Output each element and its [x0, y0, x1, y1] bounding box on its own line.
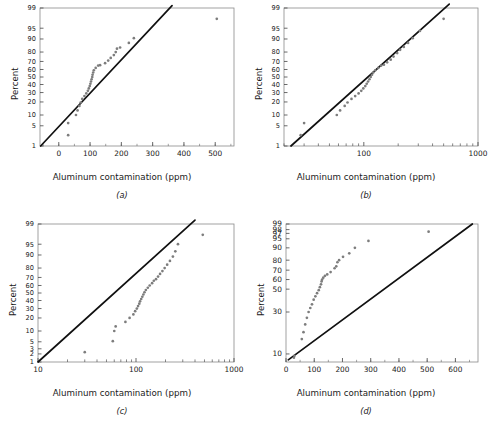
svg-text:0: 0 [56, 149, 61, 158]
svg-text:40: 40 [28, 81, 36, 89]
svg-text:95: 95 [28, 25, 36, 33]
svg-text:50: 50 [272, 73, 280, 81]
svg-text:30: 30 [272, 89, 280, 97]
panel-d-x-axis-label: Aluminum contamination (ppm) [244, 388, 488, 398]
svg-text:70: 70 [273, 266, 283, 275]
svg-text:30: 30 [28, 89, 36, 97]
svg-text:20: 20 [28, 98, 36, 106]
svg-text:99: 99 [272, 4, 280, 12]
svg-text:70: 70 [28, 58, 36, 66]
panel-d-caption: (d) [244, 406, 488, 416]
svg-text:80: 80 [28, 48, 36, 56]
svg-text:60: 60 [26, 282, 34, 290]
panel-a-x-axis-label: Aluminum contamination (ppm) [0, 172, 244, 182]
panel-c-caption: (c) [0, 406, 244, 416]
svg-text:60: 60 [272, 66, 280, 74]
svg-text:400: 400 [392, 365, 406, 374]
svg-text:30: 30 [26, 305, 34, 313]
svg-text:90: 90 [26, 251, 34, 259]
svg-text:10: 10 [273, 349, 283, 358]
svg-text:30: 30 [273, 307, 283, 316]
svg-text:20: 20 [272, 98, 280, 106]
svg-text:95: 95 [272, 25, 280, 33]
svg-text:60: 60 [28, 66, 36, 74]
svg-text:1: 1 [276, 142, 280, 150]
svg-text:300: 300 [146, 149, 160, 158]
svg-text:60: 60 [273, 275, 283, 284]
svg-text:90: 90 [272, 35, 280, 43]
svg-text:300: 300 [364, 365, 378, 374]
svg-text:10: 10 [28, 111, 36, 119]
svg-text:10: 10 [272, 111, 280, 119]
svg-text:100: 100 [83, 149, 97, 158]
svg-text:99: 99 [273, 219, 283, 228]
svg-text:50: 50 [273, 285, 283, 294]
probability-plot-b: 1510203040506070809095991001000 [244, 0, 488, 175]
svg-text:200: 200 [335, 365, 349, 374]
panel-c-y-axis-label: Percent [8, 283, 18, 316]
panel-b-y-axis-label: Percent [254, 67, 264, 100]
panel-c-x-axis-label: Aluminum contamination (ppm) [0, 388, 244, 398]
probability-plot-c: 12351020304050607080909599101001000 [0, 216, 244, 391]
panel-c: 12351020304050607080909599101001000 Perc… [0, 216, 244, 432]
svg-text:80: 80 [26, 264, 34, 272]
svg-text:500: 500 [208, 149, 222, 158]
svg-text:40: 40 [272, 81, 280, 89]
figure-sheet: 1510203040506070809095990100200300400500… [0, 0, 488, 432]
svg-text:50: 50 [26, 289, 34, 297]
svg-text:100: 100 [129, 365, 143, 374]
probability-plot-d: 1030506070809095979899010020030040050060… [244, 216, 488, 391]
svg-text:95: 95 [26, 241, 34, 249]
svg-text:5: 5 [276, 122, 280, 130]
svg-text:99: 99 [26, 220, 34, 228]
panel-a-y-axis-label: Percent [10, 67, 20, 100]
probability-plot-a: 1510203040506070809095990100200300400500 [0, 0, 244, 175]
svg-text:20: 20 [26, 314, 34, 322]
svg-text:1000: 1000 [469, 149, 488, 158]
svg-text:400: 400 [177, 149, 191, 158]
svg-text:100: 100 [357, 149, 371, 158]
svg-text:1: 1 [32, 142, 36, 150]
svg-text:99: 99 [28, 4, 36, 12]
svg-text:70: 70 [272, 58, 280, 66]
svg-text:200: 200 [114, 149, 128, 158]
svg-text:80: 80 [272, 48, 280, 56]
panel-b-caption: (b) [244, 190, 488, 200]
panel-d: 1030506070809095979899010020030040050060… [244, 216, 488, 432]
svg-text:40: 40 [26, 297, 34, 305]
svg-text:50: 50 [28, 73, 36, 81]
svg-text:70: 70 [26, 274, 34, 282]
svg-text:90: 90 [28, 35, 36, 43]
svg-text:5: 5 [32, 122, 36, 130]
svg-text:600: 600 [448, 365, 462, 374]
panel-d-y-axis-label: Percent [256, 283, 266, 316]
panel-b: 1510203040506070809095991001000 Percent … [244, 0, 488, 216]
svg-text:10: 10 [33, 365, 43, 374]
svg-text:5: 5 [30, 338, 34, 346]
svg-text:3: 3 [30, 345, 34, 353]
panel-a: 1510203040506070809095990100200300400500… [0, 0, 244, 216]
panel-b-x-axis-label: Aluminum contamination (ppm) [244, 172, 488, 182]
svg-text:500: 500 [420, 365, 434, 374]
panel-a-caption: (a) [0, 190, 244, 200]
svg-text:80: 80 [273, 256, 283, 265]
svg-text:0: 0 [284, 365, 289, 374]
svg-text:100: 100 [307, 365, 321, 374]
svg-text:90: 90 [273, 243, 283, 252]
svg-text:10: 10 [26, 327, 34, 335]
svg-text:1000: 1000 [225, 365, 244, 374]
